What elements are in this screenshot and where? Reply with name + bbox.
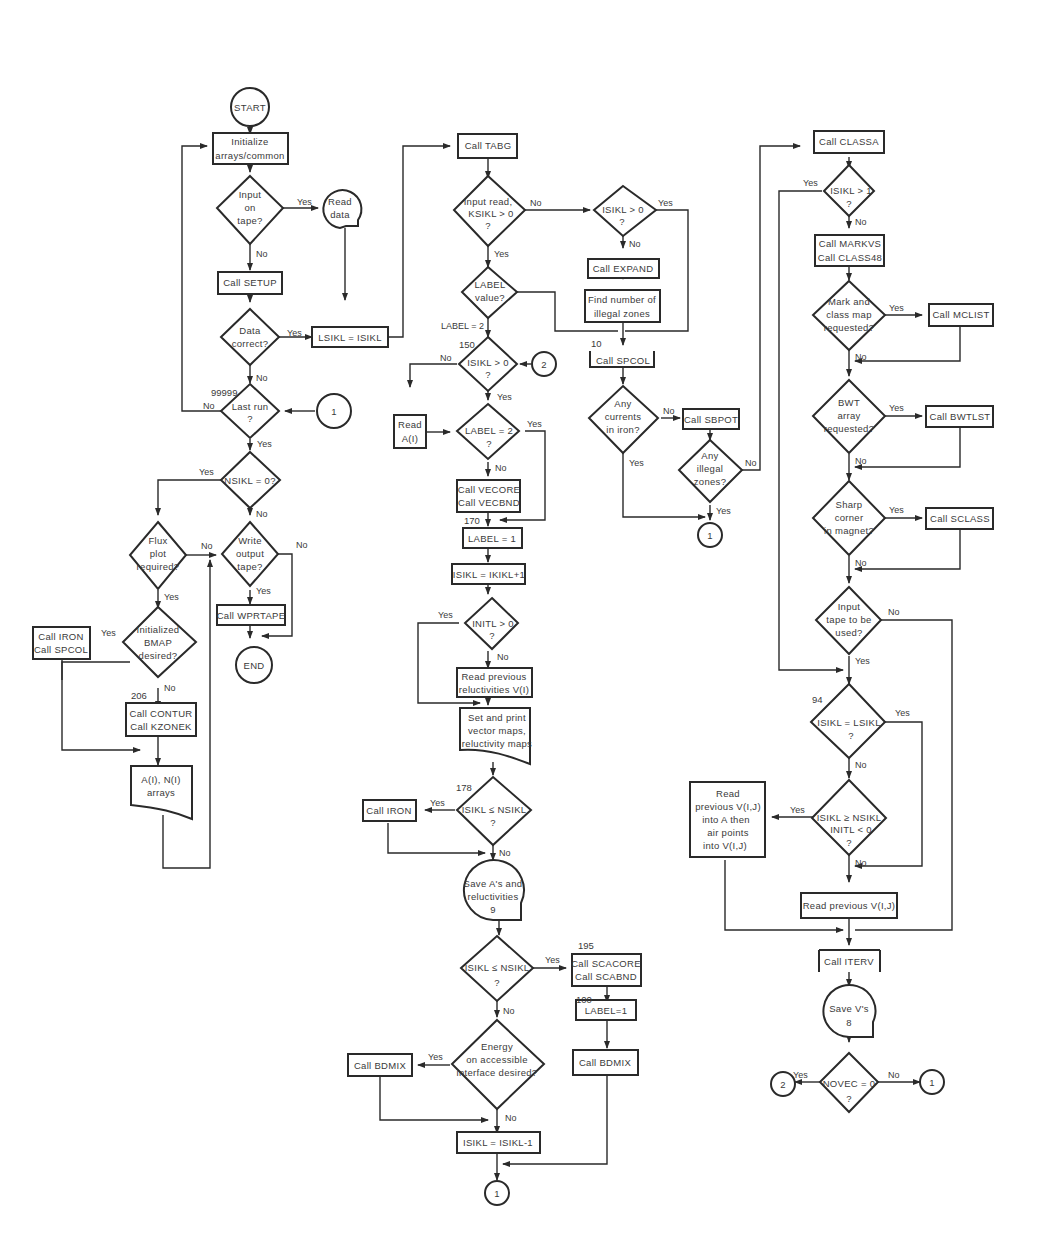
find-illegal-zones-process: Find number of illegal zones xyxy=(585,290,660,322)
input-read-decision: Input read, KSIKL > 0 ? xyxy=(454,176,525,246)
edge-label-yes: Yes xyxy=(803,178,818,188)
node-text: INITL < 0 xyxy=(830,824,872,835)
node-text: LABEL = 1 xyxy=(468,533,516,544)
node-text: reluctivity maps xyxy=(462,738,532,749)
edge-label-no: No xyxy=(888,607,900,617)
initialized-bmap-decision: Initialized BMAP desired? xyxy=(123,607,196,677)
statement-number: 178 xyxy=(456,782,472,793)
node-text: Call SPCOL xyxy=(34,644,88,655)
arrays-document: A(I), N(I) arrays xyxy=(131,766,192,819)
node-text: INITL > 0 xyxy=(472,618,514,629)
isikl-gt-1-decision: ISIKL > 1 ? xyxy=(824,165,874,216)
call-bdmix-left-process: Call BDMIX xyxy=(348,1054,412,1076)
node-text: illegal zones xyxy=(594,308,650,319)
edge-label-yes: Yes xyxy=(790,805,805,815)
node-text: on xyxy=(244,202,255,213)
node-text: arrays xyxy=(147,787,175,798)
edge-label-yes: Yes xyxy=(895,708,910,718)
node-text: KSIKL > 0 xyxy=(468,208,513,219)
node-text: in magnet? xyxy=(824,525,874,536)
node-text: ISIKL ≤ NSIKL xyxy=(462,804,527,815)
node-text: LSIKL = ISIKL xyxy=(318,332,382,343)
input-on-tape-decision: Input on tape? xyxy=(217,176,283,244)
call-mclist-process: Call MCLIST xyxy=(929,304,993,326)
node-text: Save V's xyxy=(829,1003,869,1014)
node-text: ISIKL ≤ NSIKL xyxy=(465,962,530,973)
node-text: ? xyxy=(846,837,852,848)
node-text: 1 xyxy=(929,1077,935,1088)
node-text: A(I), N(I) xyxy=(141,774,180,785)
edge-label-no: No xyxy=(203,401,215,411)
node-text: Call EXPAND xyxy=(593,263,654,274)
edge-label-no: No xyxy=(855,858,867,868)
node-text: ISIKL = ISIKL-1 xyxy=(463,1137,533,1148)
node-text: BMAP xyxy=(144,637,172,648)
node-text: Call CLASSA xyxy=(819,136,879,147)
node-text: reluctivities V(I) xyxy=(459,684,529,695)
edge-label-no: No xyxy=(495,463,507,473)
edge-label-no: No xyxy=(164,683,176,693)
read-prev-vij-process: Read previous V(I,J) xyxy=(801,893,897,918)
call-bdmix-right-process: Call BDMIX xyxy=(573,1050,638,1075)
edge-label-no: No xyxy=(530,198,542,208)
node-text: Read previous V(I,J) xyxy=(803,900,896,911)
read-prev-reluctivities-process: Read previous reluctivities V(I) xyxy=(457,668,532,697)
label-value-decision: LABEL value? xyxy=(462,267,517,318)
node-text: tape? xyxy=(237,561,262,572)
node-text: Flux xyxy=(148,535,167,546)
node-text: arrays/common xyxy=(215,150,284,161)
edge-label-yes: Yes xyxy=(428,1052,443,1062)
call-expand-process: Call EXPAND xyxy=(588,259,659,278)
edge-label-no: No xyxy=(745,458,757,468)
set-print-maps-document: Set and print vector maps, reluctivity m… xyxy=(460,708,532,764)
node-text: Call ITERV xyxy=(824,956,874,967)
node-text: Call WPRTAPE xyxy=(217,610,286,621)
call-iron-process: Call IRON xyxy=(363,800,416,821)
edge-label-yes: Yes xyxy=(164,592,179,602)
call-iterv-process: Call ITERV xyxy=(819,950,880,972)
node-text: zones? xyxy=(694,476,726,487)
node-text: Call SETUP xyxy=(223,277,277,288)
node-text: tape to be xyxy=(826,614,871,625)
node-text: Save A's and xyxy=(464,878,523,889)
start-terminal: START xyxy=(231,88,269,126)
save-v-tape: Save V's 8 xyxy=(823,985,875,1037)
edge-label-yes: Yes xyxy=(889,303,904,313)
node-text: corner xyxy=(835,512,864,523)
call-markvs-process: Call MARKVS Call CLASS48 xyxy=(815,235,884,266)
sharp-corner-decision: Sharp corner in magnet? xyxy=(813,481,885,555)
node-text: END xyxy=(244,660,265,671)
edge-label-no: No xyxy=(256,373,268,383)
lsikl-assign-process: LSIKL = ISIKL xyxy=(312,327,388,347)
call-iron-spcol-process: Call IRON Call SPCOL xyxy=(33,627,90,659)
statement-number: 150 xyxy=(459,339,475,350)
node-text: Call MARKVS xyxy=(819,238,881,249)
node-text: desired? xyxy=(139,650,178,661)
statement-number: 206 xyxy=(131,690,147,701)
node-text: 8 xyxy=(846,1017,852,1028)
edge-label-yes: Yes xyxy=(629,458,644,468)
edge-label-yes: Yes xyxy=(256,586,271,596)
node-text: Call BDMIX xyxy=(579,1057,631,1068)
node-text: requested? xyxy=(824,423,875,434)
node-text: START xyxy=(234,102,266,113)
node-text: array xyxy=(837,410,860,421)
call-classa-process: Call CLASSA xyxy=(814,131,884,153)
node-text: Call IRON xyxy=(38,631,83,642)
node-text: Data xyxy=(239,325,261,336)
node-text: ? xyxy=(846,198,852,209)
save-a-reluctivities-tape: Save A's and reluctivities 9 xyxy=(464,860,524,920)
edge-label-no: No xyxy=(663,406,675,416)
node-text: Any xyxy=(701,450,718,461)
flux-plot-decision: Flux plot required? xyxy=(130,522,186,589)
node-text: Call VECBND xyxy=(458,497,520,508)
call-vecore-process: Call VECORE Call VECBND xyxy=(457,480,520,512)
node-text: ISIKL ≥ NSIKL xyxy=(817,812,882,823)
node-text: value? xyxy=(475,292,505,303)
initl-decision: INITL > 0 ? xyxy=(465,598,518,649)
edge-label-no: No xyxy=(440,353,452,363)
any-currents-decision: Any currents in iron? xyxy=(589,386,658,453)
node-text: ISIKL = LSIKL xyxy=(817,717,881,728)
novec-decision: NOVEC = 0 ? xyxy=(820,1053,878,1112)
edge-label-yes: Yes xyxy=(101,628,116,638)
